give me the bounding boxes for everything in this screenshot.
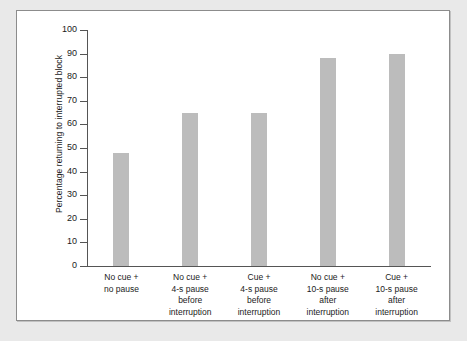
- y-axis-tick-label-wrap: 80: [33, 77, 77, 78]
- x-axis-line: [87, 266, 431, 267]
- bar-slot: [87, 30, 156, 266]
- y-axis-tick-label-wrap: 10: [33, 242, 77, 243]
- x-axis-category-label: Cue +10-s pauseafterinterruption: [357, 272, 437, 318]
- y-axis-tick-label: 10: [37, 236, 77, 246]
- y-axis-tick-label-wrap: 0: [33, 266, 77, 267]
- bar[interactable]: [113, 153, 129, 266]
- y-axis-tick-label-wrap: 40: [33, 172, 77, 173]
- x-axis-category-label-line: after: [357, 295, 437, 307]
- y-axis-tick-label: 100: [37, 24, 77, 34]
- bars-layer: [87, 30, 431, 266]
- y-axis-tick-label: 30: [37, 189, 77, 199]
- y-axis-tick-label-wrap: 60: [33, 124, 77, 125]
- y-axis-tick-label-wrap: 100: [33, 30, 77, 31]
- y-axis-tick-label: 0: [37, 260, 77, 270]
- bar[interactable]: [320, 58, 336, 266]
- y-axis-tick-label-wrap: 30: [33, 195, 77, 196]
- y-axis-tick-label-wrap: 20: [33, 219, 77, 220]
- bar[interactable]: [251, 113, 267, 266]
- y-axis-tick-label: 80: [37, 71, 77, 81]
- y-axis-tick-label-wrap: 50: [33, 148, 77, 149]
- y-axis-tick-label: 20: [37, 213, 77, 223]
- y-axis-tick-label: 40: [37, 166, 77, 176]
- x-axis-category-label-line: Cue +: [357, 272, 437, 284]
- bar[interactable]: [389, 54, 405, 266]
- y-axis-tick-label: 70: [37, 95, 77, 105]
- y-axis-tick-label-wrap: 90: [33, 54, 77, 55]
- x-axis-category-label-line: interruption: [357, 307, 437, 319]
- y-axis-tick-label: 50: [37, 142, 77, 152]
- plot-area: Percentage returning to interrupted bloc…: [17, 11, 449, 320]
- figure-frame: Percentage returning to interrupted bloc…: [16, 10, 450, 321]
- y-axis-tick-label: 60: [37, 118, 77, 128]
- bar-slot: [362, 30, 431, 266]
- x-axis-category-label-line: 10-s pause: [357, 284, 437, 296]
- bar-slot: [225, 30, 294, 266]
- bar-slot: [293, 30, 362, 266]
- bar[interactable]: [182, 113, 198, 266]
- y-axis-tick-label: 90: [37, 48, 77, 58]
- y-axis-tick-label-wrap: 70: [33, 101, 77, 102]
- bar-slot: [156, 30, 225, 266]
